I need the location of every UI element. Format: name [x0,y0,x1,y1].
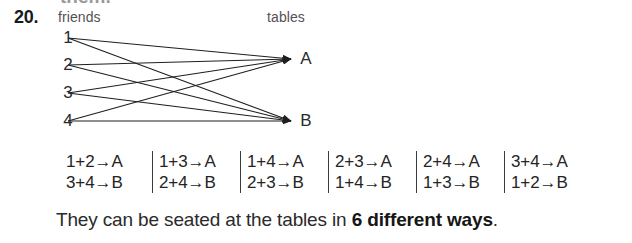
friends-caption: friends [58,9,101,25]
pairing-column: 1+3→A 2+4→B [152,151,240,193]
pairing-top: 2+3→A [335,151,416,172]
conclusion-sentence: They can be seated at the tables in 6 di… [56,209,498,231]
diagram-edge [68,38,291,121]
diagram-edge [68,38,291,59]
node-friend-3: 3 [60,83,76,103]
pairing-top: 3+4→A [511,151,592,172]
pairing-column: 3+4→A 1+2→B [504,151,592,193]
tables-caption: tables [267,9,305,25]
node-friend-2: 2 [60,55,76,75]
pairing-bottom: 2+4→B [159,172,240,193]
conclusion-emphasis: 6 different ways [352,209,493,230]
pairing-column: 1+4→A 2+3→B [240,151,328,193]
diagram-edges-svg [0,24,340,144]
pairing-bottom: 2+3→B [247,172,328,193]
bipartite-diagram: 1 2 3 4 A B [0,24,340,144]
diagram-edge [68,93,291,121]
pairing-column: 2+4→A 1+3→B [416,151,504,193]
conclusion-prefix: They can be seated at the tables in [56,209,352,230]
pairing-column: 1+2→A 3+4→B [64,151,152,193]
pairing-column: 2+3→A 1+4→B [328,151,416,193]
pairing-top: 2+4→A [423,151,504,172]
pairing-bottom: 3+4→B [66,172,152,193]
pairing-top: 1+2→A [66,151,152,172]
clipped-text-above-label: them. [60,0,111,6]
pairing-bottom: 1+4→B [335,172,416,193]
node-table-b: B [298,111,314,131]
pairing-top: 1+3→A [159,151,240,172]
node-friend-1: 1 [60,28,76,48]
node-friend-4: 4 [60,111,76,131]
pairing-bottom: 1+2→B [511,172,592,193]
diagram-edge [68,65,291,121]
pairings-table: 1+2→A 3+4→B 1+3→A 2+4→B 1+4→A 2+3→B 2+3→… [64,151,592,193]
node-table-a: A [298,49,314,69]
pairing-top: 1+4→A [247,151,328,172]
diagram-edge [68,59,291,121]
pairing-bottom: 1+3→B [423,172,504,193]
clipped-text-above: them. [0,0,632,6]
conclusion-suffix: . [493,209,498,230]
